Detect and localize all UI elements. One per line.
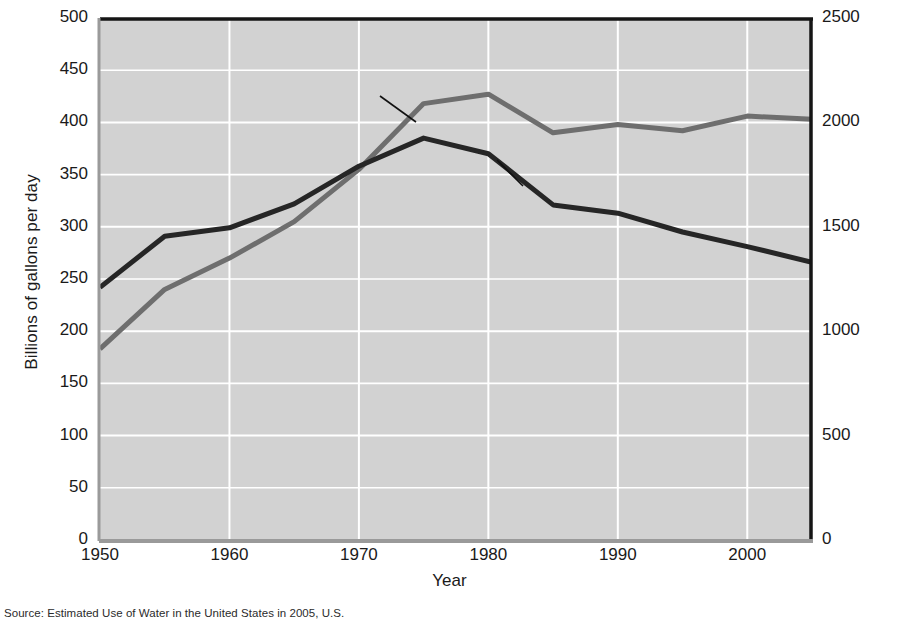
y-axis-left-tick-label: 350 [18,164,88,184]
chart-figure: Billions of gallons per day Gallons per … [0,0,899,623]
x-axis-tick-label: 1970 [319,545,399,565]
y-axis-left-tick-label: 100 [18,425,88,445]
x-axis-tick-label: 1950 [60,545,140,565]
y-axis-right-tick-label: 2000 [822,111,892,131]
x-axis-tick-label: 1990 [578,545,658,565]
x-axis-tick-label: 1960 [189,545,269,565]
y-axis-left-tick-label: 400 [18,111,88,131]
y-axis-right-tick-label: 1500 [822,216,892,236]
x-axis-tick-label: 1980 [448,545,528,565]
y-axis-left-tick-label: 450 [18,59,88,79]
y-axis-right-tick-label: 1000 [822,320,892,340]
y-axis-right-tick-label: 2500 [822,7,892,27]
y-axis-left-tick-label: 200 [18,320,88,340]
y-axis-left-tick-label: 300 [18,216,88,236]
x-axis-tick-label: 2000 [707,545,787,565]
y-axis-left-tick-label: 150 [18,372,88,392]
y-axis-right-tick-label: 500 [822,425,892,445]
y-axis-left-tick-label: 50 [18,477,88,497]
y-axis-left-tick-label: 500 [18,7,88,27]
y-axis-left-tick-label: 250 [18,268,88,288]
y-axis-right-tick-label: 0 [822,529,892,549]
plot-area [0,0,899,623]
